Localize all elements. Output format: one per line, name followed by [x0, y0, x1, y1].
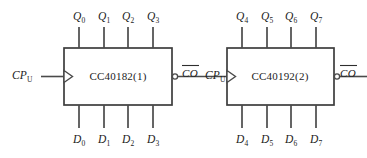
chip1-carry-out-name: CO [182, 67, 198, 79]
chip1-output-q3: Q3 [147, 11, 159, 23]
chip1-output-q1: Q1 [98, 11, 110, 23]
external-clock-label: CPU [12, 70, 32, 82]
chip2-output-q5: Q5 [261, 11, 273, 23]
chip1-input-d3: D3 [147, 134, 159, 146]
chip1-input-d2: D2 [122, 134, 134, 146]
chip2-clock-subscript: U [220, 75, 225, 84]
chip2-input-d5: D5 [261, 134, 273, 146]
chip2-input-d7: D7 [310, 134, 322, 146]
chip2-clock-name: CP [205, 69, 220, 81]
chip1-carry-out-bubble-icon [172, 74, 177, 79]
chip2-input-d6: D6 [285, 134, 297, 146]
chip1-output-q2: Q2 [122, 11, 134, 23]
chip2-output-q4: Q4 [236, 11, 248, 23]
chip2-input-d4: D4 [236, 134, 248, 146]
chip1-label: CC40182(1) [90, 71, 147, 82]
chip1-input-d0: D0 [73, 134, 85, 146]
chip2-output-q7: Q7 [310, 11, 322, 23]
final-carry-out-label: CO [340, 68, 356, 79]
chip2-output-q6: Q6 [285, 11, 297, 23]
external-clock-name: CP [12, 69, 27, 81]
chip1-carry-out-label: CO [182, 68, 198, 79]
external-clock-subscript: U [27, 75, 32, 84]
chip2-carry-out-bubble-icon [334, 74, 339, 79]
final-carry-out-name: CO [340, 67, 356, 79]
chip1-input-d1: D1 [98, 134, 110, 146]
circuit-diagram-canvas: CPU CC40182(1) CO CPU CC40192(2) CO Q0 Q… [0, 0, 367, 158]
chip2-clock-label: CPU [205, 70, 225, 82]
chip2-label: CC40192(2) [252, 71, 309, 82]
chip1-output-q0: Q0 [73, 11, 85, 23]
